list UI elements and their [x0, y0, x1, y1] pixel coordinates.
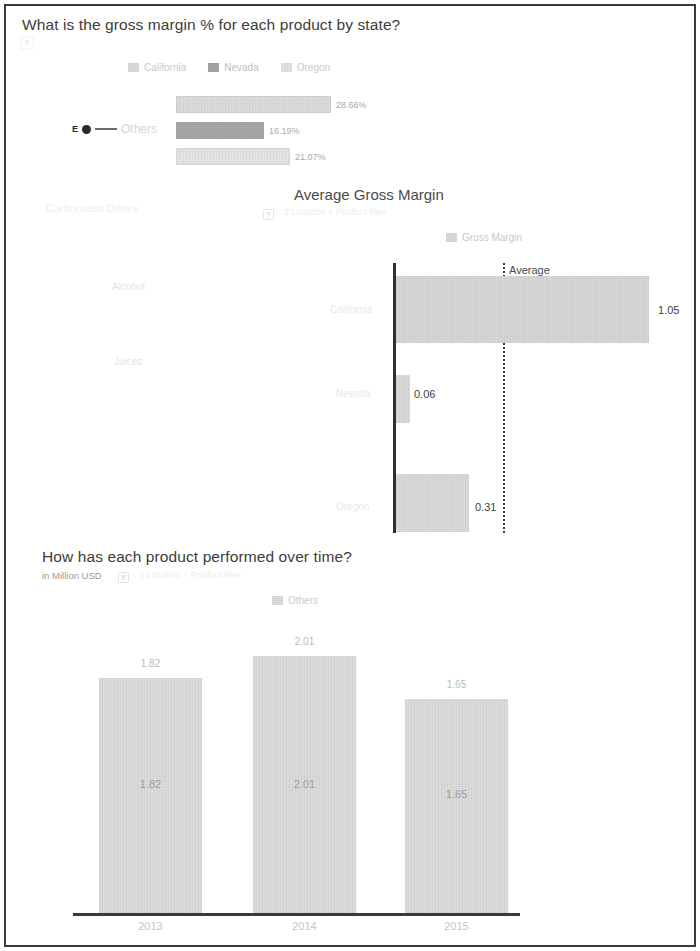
bar-value-california-middle: 1.05 [658, 304, 679, 316]
legend-swatch-others [272, 596, 283, 605]
legend-item-nevada[interactable]: Nevada [208, 62, 258, 73]
bar-oregon-middle[interactable] [396, 474, 469, 532]
legend-label-gross-margin: Gross Margin [462, 232, 522, 243]
bar-oregon-top[interactable] [176, 148, 290, 165]
legend-swatch-oregon [281, 63, 292, 72]
bar-inner-value-2014: 2.01 [253, 778, 356, 790]
axis-label-2015: 2015 [405, 920, 508, 932]
axis-label-nevada-middle: Nevada [336, 388, 370, 399]
bar-california-top[interactable] [176, 96, 331, 113]
bar-top-value-2015: 1.65 [405, 679, 508, 690]
bar-nevada-top[interactable] [176, 122, 264, 139]
bar-inner-value-2015: 1.65 [405, 788, 508, 800]
bar-2013[interactable] [99, 678, 202, 913]
section-bottom-title: How has each product performed over time… [42, 548, 352, 566]
ghost-category-juices: Juices [114, 356, 142, 367]
section-bottom-units: in Million USD [42, 570, 102, 581]
row-marker-dot [82, 125, 91, 134]
axis-label-2013: 2013 [99, 920, 202, 932]
bar-value-california-top: 28.66% [336, 100, 367, 110]
bar-2015[interactable] [405, 699, 508, 913]
ghost-category-carbonated-drinks: Carbonated Drinks [46, 202, 138, 214]
legend-item-gross-margin[interactable]: Gross Margin [446, 232, 522, 243]
report-page: What is the gross margin % for each prod… [0, 0, 700, 951]
row-marker-leader-line [95, 128, 117, 130]
row-marker-letter: E [72, 124, 78, 134]
row-marker-others[interactable]: E Others [72, 122, 157, 136]
bar-value-nevada-top: 16.19% [269, 126, 300, 136]
bar-value-oregon-top: 21.07% [295, 152, 326, 162]
legend-label-oregon: Oregon [297, 62, 330, 73]
filter-icon-bottom[interactable] [118, 569, 129, 580]
ghost-category-alcohol: Alcohol [112, 281, 145, 292]
bar-inner-value-2013: 1.82 [99, 778, 202, 790]
filter-icon-middle[interactable] [263, 206, 274, 217]
legend-label-nevada: Nevada [224, 62, 258, 73]
axis-label-2014: 2014 [253, 920, 356, 932]
section-bottom-subtitle: 2 Location + Product filter [139, 570, 241, 580]
legend-item-others-bottom[interactable]: Others [272, 595, 318, 606]
bar-california-middle[interactable] [396, 276, 649, 343]
legend-top: California Nevada Oregon [128, 62, 330, 73]
legend-swatch-california [128, 63, 139, 72]
legend-swatch-gross-margin [446, 233, 457, 242]
legend-item-oregon[interactable]: Oregon [281, 62, 330, 73]
bar-nevada-middle[interactable] [396, 375, 410, 423]
axis-label-california-middle: California [330, 304, 372, 315]
legend-item-california[interactable]: California [128, 62, 186, 73]
section-middle-title: Average Gross Margin [294, 186, 444, 203]
section-top-title: What is the gross margin % for each prod… [22, 16, 400, 34]
bar-top-value-2013: 1.82 [99, 658, 202, 669]
section-middle-subtitle: 2 Location + Product filter [284, 207, 386, 217]
bar-value-nevada-middle: 0.06 [414, 388, 435, 400]
row-label-others: Others [121, 122, 157, 136]
bar-value-oregon-middle: 0.31 [475, 501, 496, 513]
legend-swatch-nevada [208, 63, 219, 72]
legend-label-others: Others [288, 595, 318, 606]
legend-label-california: California [144, 62, 186, 73]
average-line-label: Average [509, 264, 550, 276]
bar-top-value-2014: 2.01 [253, 636, 356, 647]
filter-icon[interactable] [20, 36, 34, 50]
bottom-chart-category-axis [73, 913, 520, 916]
axis-label-oregon-middle: Oregon [336, 501, 369, 512]
